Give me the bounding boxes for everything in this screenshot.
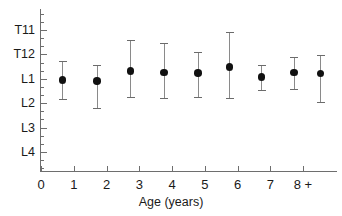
data-point-marker <box>317 70 325 78</box>
x-axis-tick <box>303 166 304 172</box>
x-axis-tick <box>238 166 239 172</box>
y-axis-major-tick <box>40 54 47 55</box>
y-axis-minor-tick <box>40 46 44 47</box>
y-axis-tick-label: L2 <box>0 97 35 110</box>
y-axis-minor-tick <box>40 63 44 64</box>
error-bar-cap-upper <box>93 65 101 66</box>
y-axis-major-tick <box>40 79 47 80</box>
data-point-marker <box>194 69 202 77</box>
error-bar-cap-lower <box>194 97 202 98</box>
y-axis-minor-tick <box>40 22 44 23</box>
error-bar-cap-upper <box>59 61 67 62</box>
y-axis-major-tick <box>40 30 47 31</box>
x-axis-title: Age (years) <box>0 196 342 209</box>
data-point-marker <box>59 76 67 84</box>
y-axis-minor-tick <box>40 144 44 145</box>
x-axis-tick <box>74 166 75 172</box>
error-bar-cap-upper <box>317 55 325 56</box>
y-axis-minor-tick <box>40 38 44 39</box>
y-axis-minor-tick <box>40 111 44 112</box>
y-axis-major-tick <box>40 128 47 129</box>
x-axis-tick <box>107 166 108 172</box>
error-bar-cap-lower <box>160 98 168 99</box>
data-point-marker <box>290 69 298 77</box>
error-bar-cap-lower <box>317 102 325 103</box>
y-axis-tick-label: L1 <box>0 73 35 86</box>
error-bar-cap-lower <box>59 99 67 100</box>
error-bar-cap-upper <box>160 43 168 44</box>
y-axis-tick-label: T11 <box>0 24 35 37</box>
data-point-marker <box>258 73 266 81</box>
y-axis-major-tick <box>40 152 47 153</box>
x-axis-tick <box>270 166 271 172</box>
error-bar-cap-lower <box>127 97 135 98</box>
x-axis-tick-label: 8 + <box>283 178 323 191</box>
y-axis-minor-tick <box>40 95 44 96</box>
data-point-marker <box>127 67 135 75</box>
y-axis-minor-tick <box>40 14 44 15</box>
error-bar-cap-lower <box>226 98 234 99</box>
error-bar-cap-upper <box>127 40 135 41</box>
data-point-marker <box>93 77 101 85</box>
error-bar-cap-upper <box>258 65 266 66</box>
y-axis-tick-label: L3 <box>0 122 35 135</box>
error-bar-cap-upper <box>194 52 202 53</box>
x-axis-tick <box>172 166 173 172</box>
chart-container: T11T12L1L2L3L4 012345678 + Age (years) <box>0 0 342 216</box>
y-axis-tick-label: L4 <box>0 146 35 159</box>
x-axis-tick <box>139 166 140 172</box>
y-axis-minor-tick <box>40 87 44 88</box>
y-axis-tick-label: T12 <box>0 48 35 61</box>
error-bar-line <box>320 55 321 102</box>
x-axis-line <box>40 171 337 172</box>
error-bar-cap-upper <box>226 32 234 33</box>
y-axis-major-tick <box>40 103 47 104</box>
y-axis-line <box>40 9 41 172</box>
y-axis-minor-tick <box>40 71 44 72</box>
error-bar-line <box>97 65 98 108</box>
error-bar-cap-upper <box>290 57 298 58</box>
error-bar-cap-lower <box>258 90 266 91</box>
y-axis-minor-tick <box>40 119 44 120</box>
x-axis-tick <box>205 166 206 172</box>
y-axis-minor-tick <box>40 160 44 161</box>
y-axis-minor-tick <box>40 136 44 137</box>
data-point-marker <box>160 69 168 77</box>
x-axis-tick <box>41 166 42 172</box>
data-point-marker <box>226 63 234 71</box>
error-bar-cap-lower <box>290 89 298 90</box>
error-bar-cap-lower <box>93 108 101 109</box>
